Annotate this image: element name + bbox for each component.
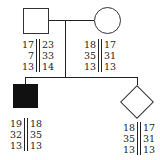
child1-haplotype-right: 18 35 13	[30, 118, 46, 151]
marker-value: 13	[18, 61, 34, 72]
haplotype-bar	[39, 39, 40, 72]
child2-drop-line	[137, 77, 138, 85]
marker-value: 18	[119, 122, 135, 133]
sibship-line	[25, 77, 138, 78]
marker-value: 13	[119, 144, 135, 155]
child1-affected-male-symbol	[13, 84, 38, 108]
haplotype-bar	[98, 39, 99, 72]
marker-value: 17	[104, 39, 120, 50]
marker-value: 13	[6, 140, 22, 151]
child2-haplotype-left: 18 35 13	[119, 122, 135, 155]
mother-female-symbol	[94, 7, 121, 34]
marker-value: 18	[30, 118, 46, 129]
marker-value: 31	[104, 50, 120, 61]
marker-value: 18	[80, 39, 96, 50]
marker-value: 23	[42, 39, 58, 50]
mother-haplotype-right: 17 31 13	[104, 39, 120, 72]
father-haplotype-left: 17 7 13	[18, 39, 34, 72]
marker-value: 35	[80, 50, 96, 61]
marker-value: 13	[30, 140, 46, 151]
marker-value: 35	[30, 129, 46, 140]
marker-value: 17	[18, 39, 34, 50]
marker-value: 17	[143, 122, 159, 133]
marker-value: 31	[143, 133, 159, 144]
child2-haplotype-right: 17 31 13	[143, 122, 159, 155]
child1-drop-line	[25, 77, 26, 84]
marker-value: 7	[18, 50, 34, 61]
haplotype-bar	[101, 39, 102, 72]
mother-haplotype-left: 18 35 13	[80, 39, 96, 72]
child1-haplotype-left: 19 32 13	[6, 118, 22, 151]
haplotype-bar	[27, 118, 28, 151]
haplotype-bar	[24, 118, 25, 151]
haplotype-bar	[140, 122, 141, 155]
marker-value: 13	[104, 61, 120, 72]
marker-value: 19	[6, 118, 22, 129]
marker-value: 35	[119, 133, 135, 144]
marriage-line	[48, 20, 94, 21]
marker-value: 14	[42, 61, 58, 72]
marker-value: 13	[143, 144, 159, 155]
father-haplotype-right: 23 33 14	[42, 39, 58, 72]
marker-value: 33	[42, 50, 58, 61]
father-male-symbol	[23, 8, 49, 34]
marker-value: 32	[6, 129, 22, 140]
haplotype-bar	[36, 39, 37, 72]
haplotype-bar	[137, 122, 138, 155]
descent-line	[65, 20, 66, 77]
child2-unknown-sex-symbol	[120, 85, 154, 119]
marker-value: 13	[80, 61, 96, 72]
